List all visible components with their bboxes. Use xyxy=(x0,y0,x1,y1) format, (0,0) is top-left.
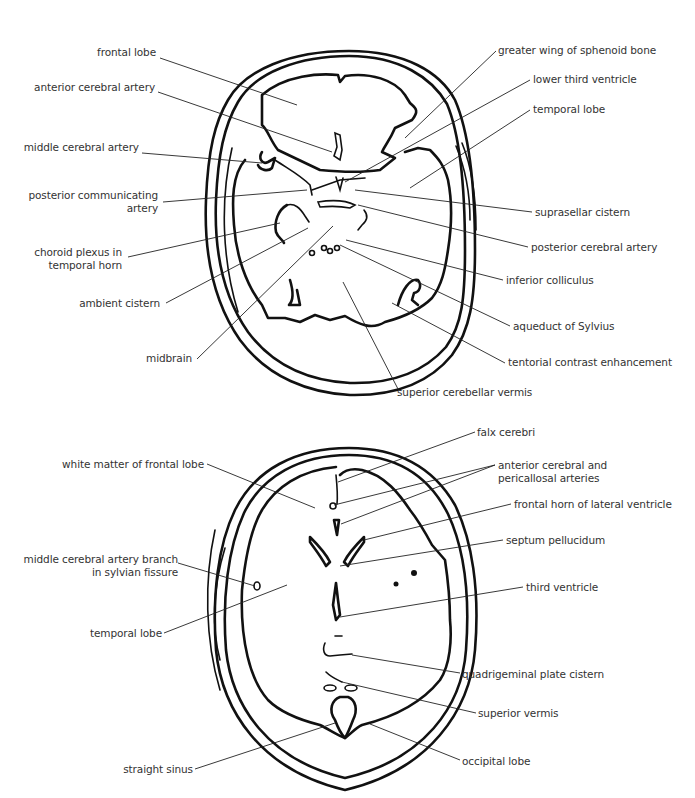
label-frontal-lobe: frontal lobe xyxy=(70,46,156,59)
label-superior-cerebellar-vermis: superior cerebellar vermis xyxy=(397,386,532,399)
skull-inner-lower xyxy=(225,455,467,778)
label-frontal-horn-lateral-ventricle: frontal horn of lateral ventricle xyxy=(514,498,672,511)
label-anterior-cerebral-pericallosal: anterior cerebral and pericallosal arter… xyxy=(498,459,607,485)
label-posterior-communicating-artery: posterior communicating artery xyxy=(20,189,158,215)
label-third-ventricle: third ventricle xyxy=(526,581,598,594)
label-white-matter-frontal: white matter of frontal lobe xyxy=(40,458,204,471)
label-tentorial-contrast: tentorial contrast enhancement xyxy=(508,356,672,369)
frontal-lobe-shape xyxy=(262,74,416,172)
skull-inner-upper xyxy=(216,56,465,383)
label-falx-cerebri: falx cerebri xyxy=(477,426,535,439)
label-anterior-cerebral-artery: anterior cerebral artery xyxy=(20,81,155,94)
label-quadrigeminal-plate-cistern: quadrigeminal plate cistern xyxy=(462,668,604,681)
label-inferior-colliculus: inferior colliculus xyxy=(506,274,594,287)
label-superior-vermis: superior vermis xyxy=(478,707,559,720)
label-temporal-lobe-upper: temporal lobe xyxy=(533,103,605,116)
label-lower-third-ventricle: lower third ventricle xyxy=(533,73,637,86)
upper-slice-drawing xyxy=(206,51,476,395)
label-ambient-cistern: ambient cistern xyxy=(60,297,160,310)
label-posterior-cerebral-artery: posterior cerebral artery xyxy=(531,241,657,254)
label-middle-cerebral-artery: middle cerebral artery xyxy=(10,141,139,154)
label-temporal-lobe-lower: temporal lobe xyxy=(70,627,162,640)
label-straight-sinus: straight sinus xyxy=(110,763,193,776)
lower-slice-drawing xyxy=(208,448,477,790)
label-occipital-lobe: occipital lobe xyxy=(462,755,530,768)
label-midbrain: midbrain xyxy=(120,352,192,365)
leader-lines xyxy=(128,51,532,769)
label-septum-pellucidum: septum pellucidum xyxy=(506,534,605,547)
label-suprasellar-cistern: suprasellar cistern xyxy=(535,206,630,219)
label-mca-branch-sylvian: middle cerebral artery branch in sylvian… xyxy=(20,553,178,579)
label-greater-wing-sphenoid: greater wing of sphenoid bone xyxy=(498,44,656,57)
skull-outer-upper xyxy=(206,51,475,395)
label-aqueduct-of-sylvius: aqueduct of Sylvius xyxy=(513,320,614,333)
label-choroid-plexus: choroid plexus in temporal horn xyxy=(20,246,122,272)
